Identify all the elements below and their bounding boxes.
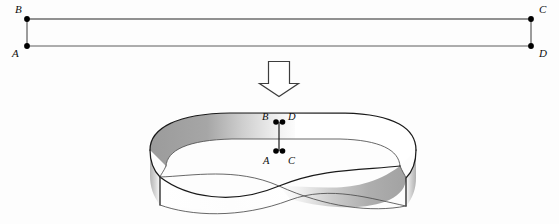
band-vertex-B xyxy=(273,119,279,125)
mobius-band-group: B D A C xyxy=(150,111,416,214)
strip-vertex-B xyxy=(24,16,30,22)
figure-canvas: B C A D xyxy=(0,0,559,224)
strip-vertex-C xyxy=(528,16,534,22)
band-vertex-D xyxy=(280,119,286,125)
band-edge-left-cap-inner xyxy=(160,166,166,177)
band-label-A: A xyxy=(262,155,270,166)
band-vertex-C xyxy=(280,148,286,154)
flat-strip-group: B C A D xyxy=(11,3,547,59)
strip-vertex-A xyxy=(24,43,30,49)
mobius-band-figure: B C A D xyxy=(0,0,559,224)
strip-label-C: C xyxy=(539,3,547,15)
strip-vertex-D xyxy=(528,43,534,49)
strip-label-D: D xyxy=(538,47,547,59)
band-vertex-A xyxy=(273,148,279,154)
transform-arrow-group xyxy=(260,62,299,97)
band-front-shade-lower-right xyxy=(279,166,406,207)
strip-label-A: A xyxy=(11,47,19,59)
band-label-C: C xyxy=(288,155,296,166)
downward-arrow-icon xyxy=(260,62,299,97)
band-front-face-lower-left xyxy=(160,177,290,210)
strip-label-B: B xyxy=(15,3,22,15)
band-label-D: D xyxy=(287,111,296,122)
band-label-B: B xyxy=(262,111,269,122)
